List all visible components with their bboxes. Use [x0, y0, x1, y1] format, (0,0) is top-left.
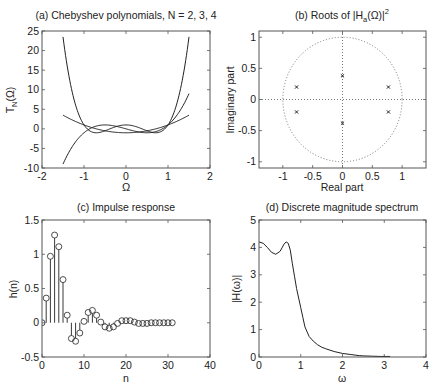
y-tick-label: -5: [30, 142, 39, 154]
x-tick-label: 1: [298, 359, 304, 371]
stem: [52, 232, 58, 323]
x-tick-label: 30: [162, 359, 174, 371]
x-tick-label: -0.5: [304, 170, 322, 182]
series-line: [63, 94, 189, 164]
x-tick-label: 0: [340, 170, 346, 182]
panel-d-ticks: 01234012345: [250, 214, 429, 372]
root-marker: [387, 110, 390, 113]
x-tick-label: 40: [204, 359, 216, 371]
y-tick-label: 10: [27, 83, 39, 95]
panel-b-title: (b) Roots of |Ha(Ω)|2: [295, 7, 389, 24]
y-tick-label: -0.5: [238, 124, 256, 136]
y-tick-label: 5: [250, 214, 256, 226]
x-tick-label: 0.5: [365, 170, 380, 182]
stem: [94, 312, 100, 323]
x-tick-label: 0: [256, 359, 262, 371]
stem: [43, 295, 49, 323]
stem: [98, 319, 104, 325]
stem: [127, 318, 133, 324]
y-tick-label: 4: [250, 241, 256, 253]
panel-c-title: (c) Impulse response: [77, 201, 175, 213]
stem: [56, 244, 62, 323]
y-tick-label: 3: [250, 268, 256, 280]
stem: [47, 253, 53, 322]
root-marker: [387, 85, 390, 88]
stem: [64, 312, 70, 323]
y-tick-label: -10: [24, 162, 39, 174]
root-marker: [295, 110, 298, 113]
x-tick-label: -1: [278, 170, 287, 182]
y-tick-label: 0: [250, 93, 256, 105]
y-tick-label: 0.5: [241, 62, 256, 74]
x-tick-label: 0: [39, 359, 45, 371]
x-tick-label: 2: [207, 170, 213, 182]
stem: [60, 277, 66, 323]
root-marker: [295, 85, 298, 88]
panel-b-xlabel: Real part: [321, 181, 364, 193]
series-line: [63, 115, 189, 133]
panel-d-xlabel: ω: [338, 372, 346, 384]
panel-a-title: (a) Chebyshev polynomials, N = 2, 3, 4: [35, 9, 216, 21]
x-tick-label: 2: [340, 359, 346, 371]
panel-d-title: (d) Discrete magnitude spectrum: [266, 201, 419, 213]
y-tick-label: 20: [27, 44, 39, 56]
panel-roots: (b) Roots of |Ha(Ω)|2 Imaginary part Rea…: [224, 7, 426, 193]
x-tick-label: 3: [381, 359, 387, 371]
panel-b-ylabel: Imaginary part: [224, 66, 236, 133]
stem: [169, 320, 175, 326]
x-tick-label: 0: [123, 170, 129, 182]
figure: (a) Chebyshev polynomials, N = 2, 3, 4 T…: [0, 0, 439, 391]
y-tick-label: 1: [33, 248, 39, 260]
x-tick-label: 1: [165, 170, 171, 182]
x-tick-label: 20: [120, 359, 132, 371]
panel-b-data: [259, 31, 426, 168]
x-tick-label: -1: [79, 170, 88, 182]
x-tick-label: 4: [423, 359, 429, 371]
stem: [115, 320, 121, 326]
panel-chebyshev-polynomials: (a) Chebyshev polynomials, N = 2, 3, 4 T…: [4, 9, 217, 193]
y-tick-label: 15: [27, 64, 39, 76]
panel-c-data: [39, 232, 175, 344]
panel-d-frame: [259, 220, 426, 357]
panel-a-ylabel: TN(Ω): [4, 87, 19, 114]
panel-d-ylabel: |H(ω)|: [230, 275, 242, 303]
y-tick-label: 0.5: [24, 282, 39, 294]
panel-a-data: [63, 37, 189, 164]
y-tick-label: 25: [27, 25, 39, 37]
y-tick-label: 0: [33, 122, 39, 134]
panel-c-frame: [42, 220, 210, 357]
panel-b-ticks: -1-0.500.51-1-0.500.51: [238, 31, 426, 182]
y-tick-label: 2: [250, 296, 256, 308]
svg-text:TN(Ω): TN(Ω): [4, 87, 19, 114]
spectrum-line: [259, 242, 390, 357]
series-line: [63, 37, 189, 133]
panel-magnitude-spectrum: (d) Discrete magnitude spectrum |H(ω)| ω…: [230, 201, 429, 384]
panel-d-data: [259, 242, 390, 357]
stem: [85, 309, 91, 322]
panel-impulse-response: (c) Impulse response h(n) n 010203040-0.…: [7, 201, 216, 384]
y-tick-label: -1: [247, 155, 256, 167]
x-tick-label: 1: [399, 170, 405, 182]
panel-a-frame: [42, 31, 210, 168]
x-tick-label: 10: [78, 359, 90, 371]
y-tick-label: 1: [250, 31, 256, 43]
y-tick-label: 0: [250, 351, 256, 363]
stem: [77, 323, 83, 336]
y-tick-label: 1: [250, 323, 256, 335]
stem: [106, 323, 112, 331]
y-tick-label: 5: [33, 103, 39, 115]
panel-c-ylabel: h(n): [7, 280, 19, 299]
panel-c-xlabel: n: [123, 372, 129, 384]
stem: [144, 320, 150, 326]
y-tick-label: 0: [33, 316, 39, 328]
panel-a-xlabel: Ω: [122, 181, 130, 193]
y-tick-label: 1.5: [24, 214, 39, 226]
stem: [131, 319, 137, 325]
stem: [81, 318, 87, 324]
y-tick-label: -0.5: [21, 351, 39, 363]
